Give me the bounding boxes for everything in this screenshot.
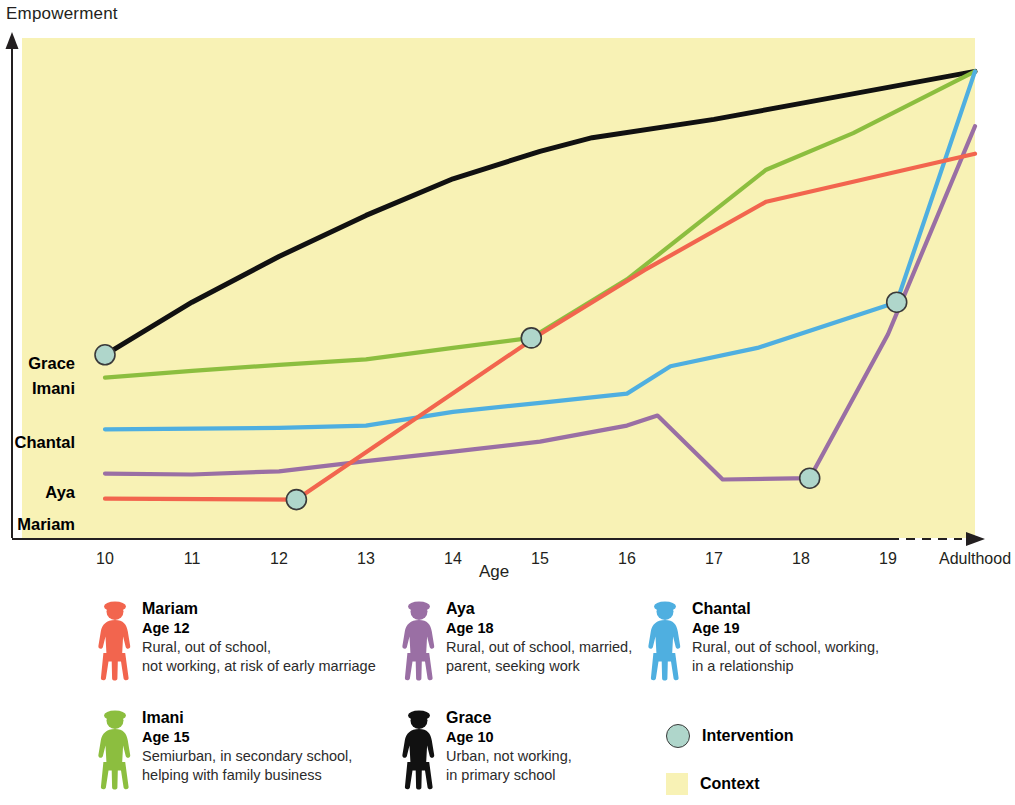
legend-name-grace: Grace	[446, 709, 572, 728]
intervention-marker-aya[interactable]	[800, 468, 820, 488]
intervention-marker-chantal[interactable]	[887, 292, 907, 312]
person-icon-chantal	[646, 598, 684, 682]
legend-name-aya: Aya	[446, 600, 632, 619]
legend-item-imani: Imani Age 15 Semiurban, in secondary sch…	[96, 707, 406, 791]
legend-text-grace: Grace Age 10 Urban, not working, in prim…	[446, 707, 572, 785]
legend-age-mariam: Age 12	[142, 619, 376, 639]
person-icon-mariam	[96, 598, 134, 682]
series-label-imani: Imani	[32, 379, 75, 398]
legend-age-imani: Age 15	[142, 728, 352, 748]
legend-desc-chantal-line1: Rural, out of school, working,	[692, 638, 879, 657]
legend-key-intervention: Intervention	[666, 724, 794, 748]
person-icon-aya	[400, 598, 438, 682]
x-axis-title-text: Age	[479, 562, 509, 581]
person-icon-imani	[96, 707, 134, 791]
legend: Mariam Age 12 Rural, out of school, not …	[0, 592, 993, 805]
legend-desc-grace-line2: in primary school	[446, 766, 572, 785]
legend-age-grace: Age 10	[446, 728, 572, 748]
legend-item-grace: Grace Age 10 Urban, not working, in prim…	[400, 707, 650, 791]
intervention-marker-mariam[interactable]	[286, 490, 306, 510]
legend-desc-mariam-line2: not working, at risk of early marriage	[142, 657, 376, 676]
legend-desc-grace-line1: Urban, not working,	[446, 747, 572, 766]
legend-desc-mariam-line1: Rural, out of school,	[142, 638, 376, 657]
intervention-marker-icon	[666, 724, 690, 748]
context-swatch-icon	[666, 773, 688, 795]
intervention-marker-grace[interactable]	[95, 345, 115, 365]
chart-plot-area: Grace Imani Chantal Aya Mariam	[0, 22, 993, 552]
legend-text-chantal: Chantal Age 19 Rural, out of school, wor…	[692, 598, 879, 676]
legend-name-mariam: Mariam	[142, 600, 376, 619]
legend-desc-aya-line2: parent, seeking work	[446, 657, 632, 676]
legend-desc-aya-line1: Rural, out of school, married,	[446, 638, 632, 657]
series-label-grace: Grace	[28, 354, 75, 373]
legend-desc-chantal-line2: in a relationship	[692, 657, 879, 676]
series-label-aya: Aya	[45, 483, 75, 502]
legend-item-mariam: Mariam Age 12 Rural, out of school, not …	[96, 598, 396, 682]
legend-age-chantal: Age 19	[692, 619, 879, 639]
empowerment-line-chart	[0, 22, 993, 552]
legend-age-aya: Age 18	[446, 619, 632, 639]
legend-item-chantal: Chantal Age 19 Rural, out of school, wor…	[646, 598, 956, 682]
legend-desc-imani-line2: helping with family business	[142, 766, 352, 785]
legend-desc-imani-line1: Semiurban, in secondary school,	[142, 747, 352, 766]
y-axis-title: Empowerment	[6, 4, 118, 24]
legend-key-context-label: Context	[700, 775, 760, 793]
legend-name-chantal: Chantal	[692, 600, 879, 619]
person-icon-grace	[400, 707, 438, 791]
legend-key-intervention-label: Intervention	[702, 727, 794, 745]
x-axis-title: Age	[0, 562, 993, 582]
legend-key-context: Context	[666, 773, 760, 795]
series-label-mariam: Mariam	[17, 515, 75, 534]
series-label-chantal: Chantal	[14, 433, 75, 452]
intervention-marker-imani[interactable]	[521, 328, 541, 348]
y-axis	[6, 32, 19, 538]
legend-text-mariam: Mariam Age 12 Rural, out of school, not …	[142, 598, 376, 676]
legend-text-imani: Imani Age 15 Semiurban, in secondary sch…	[142, 707, 352, 785]
plot-background	[22, 38, 975, 538]
legend-text-aya: Aya Age 18 Rural, out of school, married…	[446, 598, 632, 676]
legend-name-imani: Imani	[142, 709, 352, 728]
legend-item-aya: Aya Age 18 Rural, out of school, married…	[400, 598, 670, 682]
